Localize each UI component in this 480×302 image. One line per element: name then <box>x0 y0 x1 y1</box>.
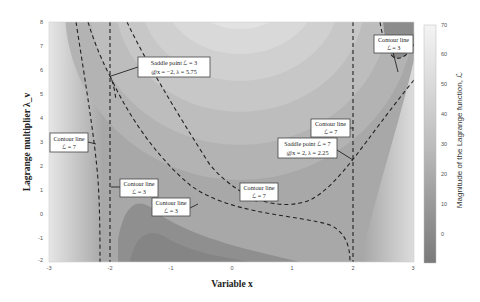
x-tick: -1 <box>169 265 174 271</box>
y-tick: -2 <box>38 257 43 263</box>
x-tick: -2 <box>108 265 113 271</box>
annotation-contour-3c-line1: Contour line <box>378 36 409 43</box>
annotation-contour-7b-line2: ℒ = 7 <box>252 192 266 199</box>
y-axis: 8 7 6 5 4 3 2 1 0 -1 -2 Lagrange multipl… <box>22 19 43 263</box>
y-tick: 1 <box>40 187 43 193</box>
y-tick: 3 <box>40 139 43 145</box>
colorbar-tick: 50 <box>441 81 447 87</box>
y-tick: 7 <box>40 43 43 49</box>
x-tick: 0 <box>230 265 233 271</box>
x-axis: -3 -2 -1 0 1 2 3 Variable x <box>47 265 415 289</box>
annotation-contour-3a-line2: ℒ = 3 <box>132 188 146 195</box>
annotation-saddle-7-line2: @x = 2, λ = 2.25 <box>287 149 329 156</box>
annotation-saddle-3-line1: Saddle point ℒ = 3 <box>151 59 197 66</box>
annotation-contour-7c-line2: ℒ = 7 <box>324 128 338 135</box>
y-tick: 2 <box>40 163 43 169</box>
x-tick: -3 <box>47 265 52 271</box>
annotation-contour-7c-line1: Contour line <box>315 120 346 127</box>
colorbar-tick: 30 <box>441 141 447 147</box>
annotation-saddle-7-line1: Saddle point ℒ = 7 <box>284 140 330 147</box>
x-tick: 2 <box>351 265 354 271</box>
annotation-contour-3a-line1: Contour line <box>123 180 154 187</box>
y-axis-label: Lagrange multiplier λ_v <box>22 93 32 192</box>
contour-chart: 8 7 6 5 4 3 2 1 0 -1 -2 Lagrange multipl… <box>0 0 480 302</box>
x-tick: 1 <box>290 265 293 271</box>
colorbar-label: Magnitude of the Lagrange function, ℒ <box>455 72 464 208</box>
annotation-contour-3b-line1: Contour line <box>155 199 186 206</box>
colorbar-tick: 0 <box>441 231 444 237</box>
annotation-contour-left-7-line1: Contour line <box>53 135 84 142</box>
colorbar-tick: 60 <box>441 51 447 57</box>
annotation-contour-3c-line2: ℒ = 3 <box>387 44 401 51</box>
annotation-contour-3b-line2: ℒ = 3 <box>164 207 178 214</box>
y-tick: 6 <box>40 67 43 73</box>
x-axis-label: Variable x <box>211 279 253 289</box>
x-tick: 3 <box>411 265 414 271</box>
plot-area <box>49 0 415 262</box>
annotation-contour-7b-line1: Contour line <box>243 184 274 191</box>
colorbar-tick: 40 <box>441 111 447 117</box>
colorbar-tick: 10 <box>441 201 447 207</box>
y-tick: 8 <box>40 19 43 25</box>
y-tick: 0 <box>40 211 43 217</box>
y-tick: 5 <box>40 91 43 97</box>
colorbar-tick: 20 <box>441 171 447 177</box>
colorbar-tick: 70 <box>441 22 447 28</box>
annotation-saddle-3-line2: @x = −2, λ = 5.75 <box>151 68 196 75</box>
colorbar: 70 60 50 40 30 20 10 0 Magnitude of the … <box>424 22 464 263</box>
y-tick: -1 <box>38 235 43 241</box>
annotation-contour-left-7-line2: ℒ = 7 <box>62 143 76 150</box>
y-tick: 4 <box>40 115 43 121</box>
